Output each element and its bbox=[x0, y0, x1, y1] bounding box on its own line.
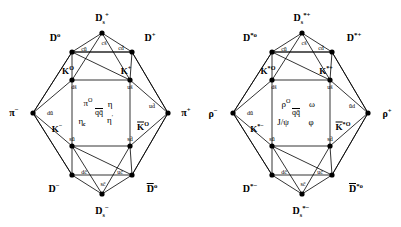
label-inner-lower-right-kaon: KO bbox=[137, 123, 149, 132]
label-lower-right-corner: D*o bbox=[349, 184, 363, 194]
center-state-eta-prime: η′ bbox=[107, 116, 113, 125]
label-bottom-corner: Ds− bbox=[95, 206, 109, 216]
label-right-corner: ρ+ bbox=[382, 109, 391, 119]
center-state-pi0: πO bbox=[84, 99, 93, 108]
label-inner-upper-right-kaon: K*+ bbox=[319, 67, 333, 76]
label-upper-left-corner: D*o bbox=[243, 33, 257, 43]
vector-lattice-svg bbox=[200, 0, 401, 227]
label-top-corner: Ds+ bbox=[95, 13, 109, 23]
label-bottom-corner: Ds*− bbox=[293, 206, 310, 216]
quark-label-right-edge: ūd bbox=[349, 103, 355, 109]
quark-label-top-right-edge: cd̄ bbox=[118, 45, 124, 51]
center-state-jpsi: J/ψ bbox=[277, 118, 289, 127]
quark-label-upper-inner-right: us̄ bbox=[127, 84, 132, 90]
label-inner-lower-left-kaon: K− bbox=[52, 125, 63, 134]
center-state-phi: φ bbox=[308, 118, 313, 127]
label-top-corner: Ds*+ bbox=[294, 13, 311, 23]
center-state-qqbar: qq̄ bbox=[95, 109, 103, 117]
quark-label-bottom-left-edge: dc̄ bbox=[81, 169, 87, 175]
label-left-corner: ρ− bbox=[208, 109, 217, 119]
quark-label-top-left-edge: cū bbox=[81, 46, 87, 52]
label-lower-left-corner: D− bbox=[48, 184, 59, 194]
quark-label-left-edge: dū bbox=[247, 110, 253, 116]
quark-label-top-vertex: cs̄ bbox=[302, 40, 307, 46]
label-inner-lower-left-kaon: K*− bbox=[250, 125, 264, 134]
quark-label-bottom-right-edge: uc̄ bbox=[317, 169, 323, 175]
diagram-vector-mesons: Ds*+ D*o D*+ ρ− ρ+ D*− D*o Ds*− K*O K*+ … bbox=[200, 0, 401, 227]
center-state-eta: η bbox=[108, 100, 113, 109]
quark-label-upper-inner-right: us̄ bbox=[327, 84, 332, 90]
figure-canvas: Ds+ Do D+ π− π+ D− Do Ds− KO K+ K− KO cs… bbox=[0, 0, 401, 227]
label-upper-left-corner: Do bbox=[50, 33, 61, 43]
quark-label-bottom-vertex: sc̄ bbox=[101, 181, 106, 187]
quark-label-right-edge: ud̄ bbox=[149, 103, 155, 109]
center-state-eta-c: ηc bbox=[78, 117, 85, 126]
center-state-omega: ω bbox=[309, 100, 315, 109]
quark-label-lower-inner-right: sd̄ bbox=[327, 136, 332, 142]
quark-label-upper-inner-left: ds̄ bbox=[271, 84, 276, 90]
quark-label-top-left-edge: cū bbox=[281, 46, 287, 52]
center-state-qqbar: qq̄ bbox=[292, 109, 300, 117]
label-upper-right-corner: D*+ bbox=[347, 33, 362, 43]
quark-label-bottom-right-edge: uc̄ bbox=[117, 169, 123, 175]
label-inner-upper-left-kaon: KO bbox=[62, 67, 74, 76]
label-left-corner: π− bbox=[9, 108, 18, 118]
quark-label-top-right-edge: cd̄ bbox=[318, 45, 324, 51]
quark-label-lower-inner-left: sū bbox=[269, 136, 274, 142]
label-right-corner: π+ bbox=[181, 108, 190, 118]
quark-label-left-edge: dū bbox=[47, 110, 53, 116]
quark-label-top-vertex: cs̄ bbox=[102, 40, 107, 46]
quark-label-bottom-left-edge: dc̄ bbox=[281, 169, 287, 175]
label-inner-upper-right-kaon: K+ bbox=[121, 67, 132, 76]
quark-label-upper-inner-left: ds̄ bbox=[71, 84, 76, 90]
quark-label-bottom-vertex: sc̄ bbox=[301, 181, 306, 187]
center-state-rho0: ρO bbox=[282, 100, 291, 109]
label-upper-right-corner: D+ bbox=[144, 33, 155, 43]
label-inner-upper-left-kaon: K*O bbox=[261, 67, 276, 76]
quark-label-lower-inner-left: sū bbox=[69, 136, 74, 142]
label-lower-right-corner: Do bbox=[147, 184, 158, 194]
label-lower-left-corner: D*− bbox=[243, 184, 258, 194]
label-inner-lower-right-kaon: K*O bbox=[336, 123, 351, 132]
diagram-pseudoscalar-mesons: Ds+ Do D+ π− π+ D− Do Ds− KO K+ K− KO cs… bbox=[0, 0, 201, 227]
quark-label-lower-inner-right: sd̄ bbox=[127, 136, 132, 142]
